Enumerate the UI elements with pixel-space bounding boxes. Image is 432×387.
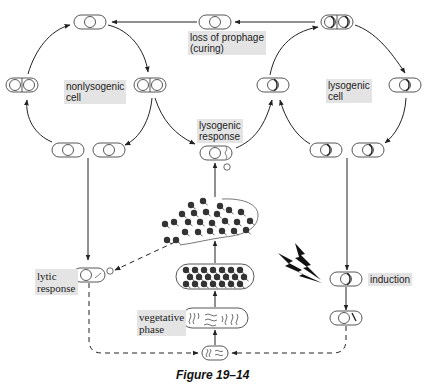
phage-cycle-diagram <box>0 0 432 387</box>
label-loss-of-prophage: loss of prophage (curing) <box>188 31 266 55</box>
lysogenic-cell-right <box>389 78 421 92</box>
label-lytic-response: lytic response <box>35 269 78 295</box>
daughter-cell-right <box>93 143 125 157</box>
lysed-cell-phage-burst <box>162 198 258 245</box>
vegetative-phase-cell <box>182 308 248 328</box>
lysogenic-daughter-left <box>310 143 342 157</box>
label-vegetative-phase: vegetative phase <box>137 310 186 336</box>
phage-packed-cell <box>176 264 254 289</box>
label-nonlysogenic-cell: nonlysogenic cell <box>64 80 126 104</box>
cell-dividing-left <box>6 78 38 92</box>
lysogenic-cell-left <box>257 78 289 92</box>
label-lysogenic-cell: lysogenic cell <box>326 79 372 103</box>
lytic-response-cell <box>73 268 113 282</box>
uv-lightning-icon <box>278 243 322 283</box>
cured-cell <box>199 15 231 29</box>
figure-caption: Figure 19–14 <box>176 368 249 382</box>
label-lysogenic-response: lysogenic response <box>197 119 243 143</box>
lysogenic-response-cell <box>200 146 232 170</box>
cell-top-left <box>74 15 106 29</box>
induction-cell <box>330 272 362 286</box>
daughter-cell-left <box>52 143 84 157</box>
label-induction: induction <box>368 273 412 286</box>
infected-cell-bottom <box>202 346 228 360</box>
lysogenic-daughter-right <box>352 143 384 157</box>
excised-prophage-cell <box>330 311 362 325</box>
cell-dividing-right <box>134 78 166 92</box>
lysogenic-cell-dividing-top <box>321 15 353 29</box>
